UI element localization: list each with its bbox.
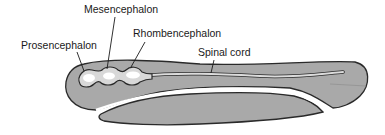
- prosencephalon-lumen: [83, 74, 95, 82]
- rhombencephalon-label: Rhombencephalon: [133, 28, 221, 39]
- prosencephalon-label: Prosencephalon: [21, 40, 97, 51]
- spinal-cord-label: Spinal cord: [198, 47, 251, 58]
- mesencephalon-lumen: [103, 73, 115, 80]
- neural-tube-diagram: [0, 0, 385, 135]
- rhombencephalon-lumen: [126, 72, 140, 79]
- mesencephalon-label: Mesencephalon: [84, 4, 158, 15]
